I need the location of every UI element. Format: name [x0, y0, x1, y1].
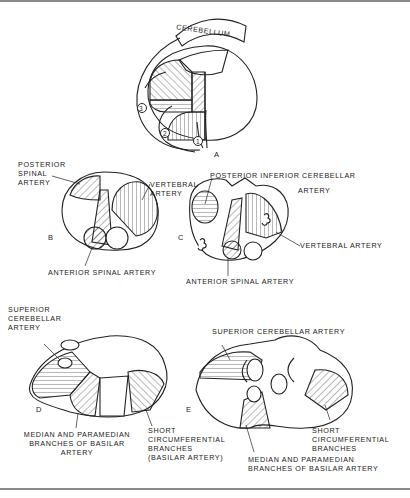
panel-a-letter: A — [214, 150, 219, 159]
pathway-1-label: 1 — [196, 137, 200, 146]
panel-d-superior-cerebellar-artery-label: SUPERIOR CEREBELLAR ARTERY — [8, 305, 62, 332]
pica-label-line2: ARTERY — [298, 186, 331, 195]
panel-c-letter: C — [178, 233, 183, 242]
panel-d-short-circumferential-label: SHORT CIRCUMFERENTIAL BRANCHES (BASILAR … — [148, 426, 225, 462]
panel-b-letter: B — [48, 233, 53, 242]
pathway-2-label: 2 — [163, 129, 167, 138]
posterior-spinal-artery-label: POSTERIOR SPINAL ARTERY — [18, 160, 66, 187]
panel-b-medulla-section — [62, 172, 158, 250]
panel-c-vertebral-artery-label: VERTEBRAL ARTERY — [300, 241, 382, 250]
pica-label-line1: POSTERIOR INFERIOR CEREBELLAR — [210, 171, 356, 180]
pathway-3-label: 3 — [139, 104, 143, 113]
panel-c-anterior-spinal-artery-label: ANTERIOR SPINAL ARTERY — [186, 277, 294, 286]
panel-e-median-paramedian-label: MEDIAN AND PARAMEDIAN BRANCHES OF BASILA… — [248, 455, 378, 473]
panel-d-pons-section — [29, 336, 167, 418]
panel-d-letter: D — [36, 405, 41, 414]
panel-a-sagittal-brainstem — [137, 19, 257, 152]
panel-e-short-circumferential-label: SHORT CIRCUMFERENTIAL BRANCHES — [312, 426, 389, 453]
panel-d-median-paramedian-label: MEDIAN AND PARAMEDIAN BRANCHES OF BASILA… — [18, 430, 136, 457]
panel-e-letter: E — [186, 405, 191, 414]
panel-e-pons-section — [196, 336, 352, 428]
panel-b-vertebral-artery-label: VERTEBRAL ARTERY — [150, 180, 198, 198]
panel-c-medulla-section — [190, 178, 289, 260]
panel-b-anterior-spinal-artery-label: ANTERIOR SPINAL ARTERY — [48, 268, 156, 277]
panel-e-superior-cerebellar-artery-label: SUPERIOR CEREBELLAR ARTERY — [212, 327, 345, 336]
